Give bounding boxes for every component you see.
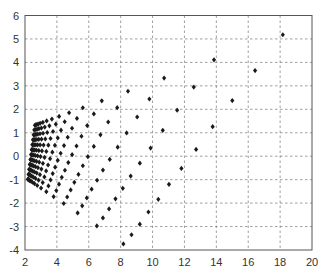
data-point [43, 136, 47, 141]
data-point [95, 178, 99, 183]
data-point [175, 108, 179, 113]
data-point [48, 136, 52, 141]
x-axis-ticks: 2468101214161820 [22, 256, 318, 268]
data-point [253, 68, 257, 73]
data-point [75, 116, 79, 121]
data-point [42, 155, 46, 160]
data-point [38, 154, 42, 159]
y-tick-label: 4 [13, 56, 19, 68]
data-point [129, 173, 133, 178]
data-point [230, 98, 234, 103]
data-point [92, 111, 96, 116]
data-point [59, 128, 63, 133]
data-point [126, 89, 130, 94]
x-tick-label: 20 [306, 256, 318, 268]
data-point [60, 175, 64, 180]
data-point [179, 166, 183, 171]
data-point [51, 171, 55, 176]
data-point [41, 161, 45, 166]
data-point [48, 177, 52, 182]
data-point [41, 142, 45, 147]
y-tick-label: 0 [13, 150, 19, 162]
data-point [156, 197, 160, 202]
y-tick-label: 1 [13, 127, 19, 139]
data-point [135, 114, 139, 119]
x-tick-label: 10 [146, 256, 158, 268]
x-tick-label: 14 [210, 256, 222, 268]
data-point [45, 118, 49, 123]
data-point [74, 143, 78, 148]
data-point [125, 130, 129, 135]
data-point [63, 168, 67, 173]
data-point [44, 189, 48, 194]
grid-lines [25, 16, 312, 251]
data-point [161, 128, 165, 133]
data-point [86, 154, 90, 159]
data-point [81, 163, 85, 168]
data-point [48, 156, 52, 161]
data-point [66, 135, 70, 140]
data-point [192, 84, 196, 89]
data-point [76, 210, 80, 215]
data-point [194, 147, 198, 152]
data-point [62, 201, 66, 206]
data-point [212, 57, 216, 62]
data-point [113, 196, 117, 201]
data-point [281, 32, 285, 37]
data-point [69, 187, 73, 192]
data-point [85, 195, 89, 200]
data-point [53, 165, 57, 170]
data-point [80, 203, 84, 208]
data-point [39, 166, 43, 171]
y-tick-label: -3 [9, 221, 19, 233]
y-tick-label: -4 [9, 244, 19, 256]
data-point [46, 183, 50, 188]
data-point [41, 180, 45, 185]
data-point [47, 123, 51, 128]
data-point [46, 162, 50, 167]
data-point [51, 129, 55, 134]
data-point [62, 143, 66, 148]
data-point [147, 96, 151, 101]
x-tick-label: 12 [178, 256, 190, 268]
data-point [70, 126, 74, 131]
data-point [39, 186, 43, 191]
x-tick-label: 2 [22, 256, 28, 268]
y-tick-label: 6 [13, 10, 19, 22]
data-point [211, 124, 215, 129]
x-tick-label: 8 [118, 256, 124, 268]
data-point [50, 150, 54, 155]
y-tick-label: -1 [9, 174, 19, 186]
data-point [106, 119, 110, 124]
data-point [56, 158, 60, 163]
data-point [54, 188, 58, 193]
data-point [63, 119, 67, 124]
data-point [67, 110, 71, 115]
y-tick-label: 2 [13, 103, 19, 115]
data-point [149, 145, 153, 150]
data-point [72, 180, 76, 185]
data-point [146, 209, 150, 214]
y-tick-label: -2 [9, 197, 19, 209]
data-point [45, 130, 49, 135]
data-point [66, 160, 70, 165]
x-tick-label: 6 [86, 256, 92, 268]
data-point [56, 135, 60, 140]
y-tick-label: 3 [13, 80, 19, 92]
y-axis-ticks: -4-3-2-10123456 [9, 10, 19, 257]
data-points [26, 32, 285, 246]
data-point [79, 134, 83, 139]
data-point [108, 157, 112, 162]
data-point [138, 222, 142, 227]
data-point [95, 223, 99, 228]
plot-frame [25, 16, 312, 251]
data-point [129, 232, 133, 237]
scatter-chart: 2468101214161820 -4-3-2-10123456 [0, 0, 325, 278]
data-point [43, 125, 47, 130]
data-point [59, 151, 63, 156]
data-point [42, 174, 46, 179]
data-point [92, 144, 96, 149]
data-point [116, 145, 120, 150]
data-point [101, 215, 105, 220]
data-point [50, 116, 54, 121]
